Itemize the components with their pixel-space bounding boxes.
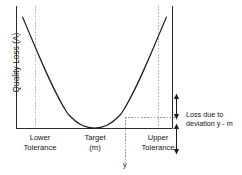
label-upper-tolerance: Upper Tolerance <box>128 133 188 152</box>
label-lower-tolerance-line1: Lower <box>10 133 70 143</box>
quality-loss-figure: Quality Loss (A) Lower Tolerance Target … <box>0 0 242 175</box>
label-lower-tolerance-line2: Tolerance <box>10 143 70 153</box>
label-deviation-y: y <box>115 160 135 170</box>
label-lower-tolerance: Lower Tolerance <box>10 133 70 152</box>
label-target: Target (m) <box>65 133 125 152</box>
label-upper-tolerance-line2: Tolerance <box>128 143 188 153</box>
label-upper-tolerance-line1: Upper <box>128 133 188 143</box>
annotation-line2: deviation y - m <box>186 119 242 128</box>
annotation-line1: Loss due to <box>186 110 242 119</box>
annotation-loss-due-to-deviation: Loss due to deviation y - m <box>186 110 242 129</box>
label-target-line1: Target <box>65 133 125 143</box>
label-target-line2: (m) <box>65 143 125 153</box>
